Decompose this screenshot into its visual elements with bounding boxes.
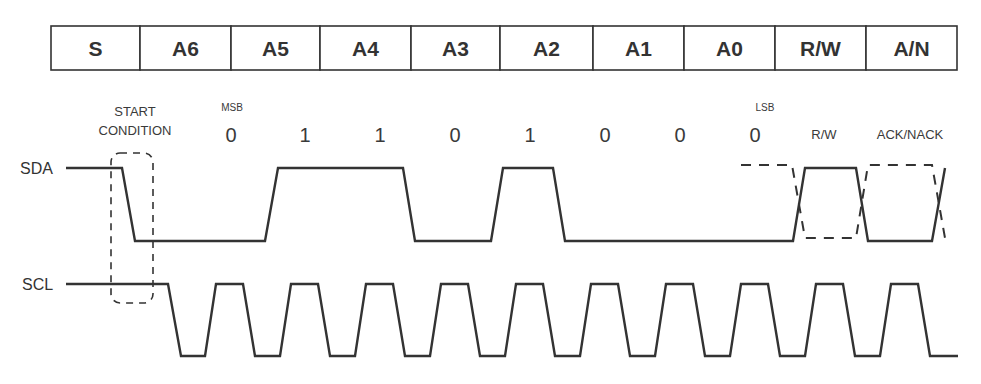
bit-cell-label: A/N [893, 37, 929, 60]
bit-value: 0 [449, 124, 460, 146]
bit-value: 0 [674, 124, 685, 146]
bit-cell-label: A1 [625, 37, 652, 60]
bit-cell: A6 [140, 26, 231, 70]
bit-cell: A4 [320, 26, 411, 70]
bit-value: 0 [225, 124, 236, 146]
msb-label: MSB [221, 102, 243, 113]
sda-label: SDA [20, 160, 53, 177]
sda-waveform [66, 168, 945, 241]
i2c-timing-diagram: SA6A5A4A3A2A1A0R/WA/N START CONDITION MS… [0, 0, 981, 384]
bit-cell-label: A4 [352, 37, 379, 60]
start-condition-label-line1: START [114, 104, 155, 119]
bit-frame-table: SA6A5A4A3A2A1A0R/WA/N [51, 26, 957, 70]
bit-cell: A2 [500, 26, 593, 70]
bit-cell-label: A5 [262, 37, 289, 60]
scl-label: SCL [22, 276, 53, 293]
rw-bit-label: R/W [811, 127, 837, 142]
start-condition-label-line2: CONDITION [99, 123, 172, 138]
bit-cell: S [51, 26, 140, 70]
scl-waveform [66, 284, 958, 356]
bit-cell-label: A3 [442, 37, 469, 60]
address-bit-values: 01101000 [225, 124, 760, 146]
bit-cell-label: R/W [800, 37, 841, 60]
bit-value: 0 [599, 124, 610, 146]
bit-value: 1 [374, 124, 385, 146]
lsb-label: LSB [756, 102, 775, 113]
bit-cell-label: S [88, 37, 102, 60]
sda-alternate-state-waveform [741, 165, 945, 238]
bit-cell-label: A2 [533, 37, 560, 60]
bit-cell: R/W [775, 26, 866, 70]
bit-cell: A5 [231, 26, 320, 70]
bit-value: 1 [299, 124, 310, 146]
bit-cell-label: A6 [172, 37, 199, 60]
ack-nack-label: ACK/NACK [877, 127, 944, 142]
bit-value: 0 [749, 124, 760, 146]
bit-cell: A/N [866, 26, 957, 70]
bit-cell: A3 [411, 26, 500, 70]
bit-cell-label: A0 [716, 37, 743, 60]
timing-diagram-canvas: SA6A5A4A3A2A1A0R/WA/N START CONDITION MS… [0, 0, 981, 384]
bit-cell: A1 [593, 26, 684, 70]
bit-cell: A0 [684, 26, 775, 70]
bit-value: 1 [524, 124, 535, 146]
